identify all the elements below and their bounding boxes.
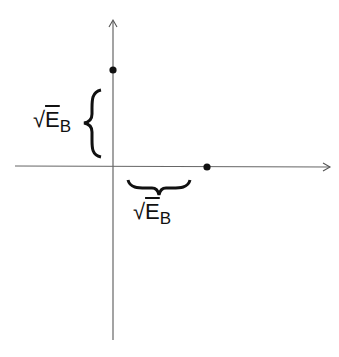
horizontal-brace-label: √EB [133, 201, 171, 227]
horizontal-brace-icon [128, 180, 190, 195]
label-base: E [145, 199, 160, 224]
diagram-canvas [0, 0, 339, 357]
vertical-brace-icon [84, 90, 101, 157]
label-subscript: B [160, 209, 171, 228]
y-axis-point [109, 66, 116, 73]
label-subscript: B [60, 117, 71, 136]
radical-sign: √ [133, 199, 145, 224]
x-axis-point [203, 163, 210, 170]
label-base: E [45, 107, 60, 132]
horizontal-axis [15, 166, 330, 167]
radical-sign: √ [33, 107, 45, 132]
vertical-brace-label: √EB [33, 109, 71, 135]
